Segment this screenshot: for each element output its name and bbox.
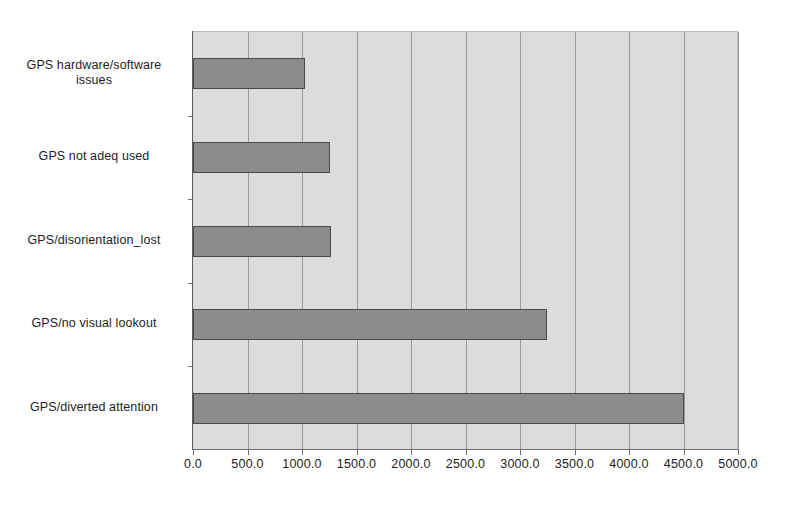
gridline-x-4500.0 (684, 32, 685, 450)
y-axis-label-line: issues (8, 73, 180, 88)
x-axis-tick-label: 2500.0 (446, 456, 485, 472)
y-axis-label: GPS/no visual lookout (8, 316, 180, 331)
bar (193, 393, 684, 424)
x-axis-tick-label: 5000.0 (718, 456, 757, 472)
x-axis-tick-label: 1000.0 (282, 456, 321, 472)
x-tick-5000.0 (738, 450, 739, 455)
y-axis-label-line: GPS/disorientation_lost (8, 233, 180, 248)
x-tick-1000.0 (302, 450, 303, 455)
x-tick-4000.0 (629, 450, 630, 455)
x-axis-tick-label: 500.0 (231, 456, 263, 472)
bar-chart-figure: GPS hardware/softwareissuesGPS not adeq … (0, 0, 802, 507)
x-tick-1500.0 (357, 450, 358, 455)
x-axis-tick-label: 0.0 (184, 456, 202, 472)
y-axis-category-labels: GPS hardware/softwareissuesGPS not adeq … (10, 31, 188, 449)
y-axis-label: GPS/diverted attention (8, 400, 180, 415)
y-axis-label-line: GPS/no visual lookout (8, 316, 180, 331)
y-axis-label: GPS hardware/softwareissues (8, 58, 180, 88)
gridline-x-4000.0 (629, 32, 630, 450)
x-axis-tick-label: 2000.0 (391, 456, 430, 472)
x-axis-tick-label: 3000.0 (500, 456, 539, 472)
y-axis-label: GPS/disorientation_lost (8, 233, 180, 248)
x-axis-tick-label: 4500.0 (664, 456, 703, 472)
bar (193, 142, 330, 173)
x-axis-tick-label: 1500.0 (337, 456, 376, 472)
gridline-x-1500.0 (357, 32, 358, 450)
x-tick-500.0 (248, 450, 249, 455)
x-tick-3500.0 (575, 450, 576, 455)
gridline-x-3500.0 (575, 32, 576, 450)
gridline-x-2000.0 (411, 32, 412, 450)
x-tick-4500.0 (684, 450, 685, 455)
y-axis-label-line: GPS not adeq used (8, 149, 180, 164)
bar (193, 309, 547, 340)
x-tick-0.0 (193, 450, 194, 455)
gridline-x-3000.0 (520, 32, 521, 450)
x-tick-2000.0 (411, 450, 412, 455)
x-tick-2500.0 (466, 450, 467, 455)
y-axis-label: GPS not adeq used (8, 149, 180, 164)
x-axis-tick-label: 3500.0 (555, 456, 594, 472)
gridline-x-2500.0 (466, 32, 467, 450)
bar (193, 226, 331, 257)
y-axis-label-line: GPS/diverted attention (8, 400, 180, 415)
gridline-x-5000.0 (738, 32, 739, 450)
y-axis-label-line: GPS hardware/software (8, 58, 180, 73)
x-axis-tick-labels: 0.0500.01000.01500.02000.02500.03000.035… (0, 456, 802, 480)
y-axis-line (192, 31, 193, 450)
x-axis-line (192, 449, 739, 450)
x-axis-tick-label: 4000.0 (609, 456, 648, 472)
plot-area (193, 31, 738, 449)
bar (193, 58, 305, 89)
x-tick-3000.0 (520, 450, 521, 455)
